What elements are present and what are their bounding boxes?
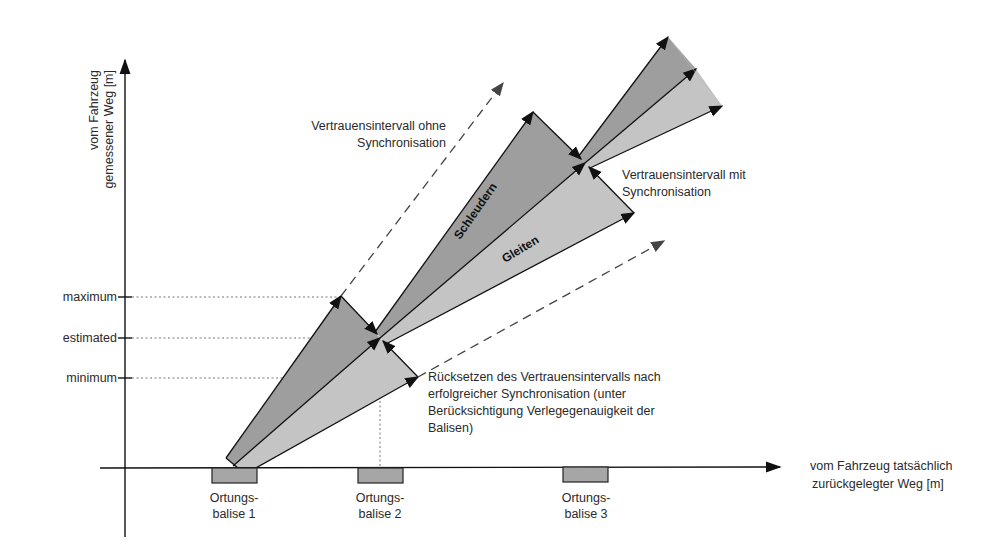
- balise-3-label-line2: balise 3: [564, 507, 607, 521]
- reset-label-line3: Berücksichtigung Verlegegenauigkeit der: [428, 404, 655, 418]
- reset-label-line1: Rücksetzen des Vertrauensintervalls nach: [428, 370, 661, 384]
- no-sync-label-line1: Vertrauensintervall ohne: [311, 119, 446, 133]
- balise-3: [563, 467, 608, 482]
- balise-1-label-line1: Ortungs-: [210, 491, 259, 505]
- balise-3-label-line1: Ortungs-: [562, 491, 611, 505]
- balise-2-label-line2: balise 2: [358, 507, 401, 521]
- x-axis: [100, 467, 780, 468]
- fan-3: [578, 37, 722, 168]
- balise-2: [358, 468, 403, 483]
- balise-1-label-line2: balise 1: [212, 507, 255, 521]
- balise-1: [212, 468, 257, 483]
- y-axis-label-line1: vom Fahrzeug: [87, 70, 101, 150]
- reset-label-line4: Balisen): [428, 421, 473, 435]
- tick-label-estimated: estimated: [63, 331, 117, 345]
- tick-label-maximum: maximum: [63, 290, 117, 304]
- y-axis-label-line2: gemessener Weg [m]: [102, 70, 116, 189]
- balise-2-label-line1: Ortungs-: [356, 491, 405, 505]
- no-sync-label-line2: Synchronisation: [357, 136, 446, 150]
- with-sync-label-line1: Vertrauensintervall mit: [622, 168, 746, 182]
- confidence-interval-diagram: vom Fahrzeug gemessener Weg [m] vom Fahr…: [0, 0, 1003, 549]
- x-axis-label-line2: zurückgelegter Weg [m]: [812, 477, 944, 491]
- with-sync-label-line2: Synchronisation: [622, 185, 711, 199]
- reset-label-line2: erfolgreicher Synchronisation (unter: [428, 387, 626, 401]
- tick-label-minimum: minimum: [66, 371, 117, 385]
- balises: [212, 467, 608, 483]
- x-axis-label-line1: vom Fahrzeug tatsächlich: [810, 459, 952, 473]
